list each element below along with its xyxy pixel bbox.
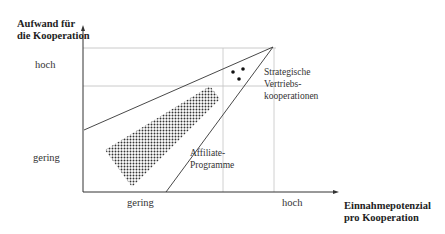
y-axis-title-line1: Aufwand für — [17, 18, 90, 30]
strategic-dot — [231, 70, 235, 74]
y-tick-high: hoch — [35, 59, 55, 71]
strategic-dot — [237, 77, 241, 81]
x-tick-high: hoch — [282, 197, 302, 209]
y-axis-title: Aufwand für die Kooperation — [17, 18, 90, 42]
region-label-affiliate-line1: Affiliate- — [190, 148, 234, 160]
region-label-affiliate-line2: Programme — [190, 160, 234, 172]
x-axis-title-line1: Einnahmepotenzial — [344, 200, 431, 212]
region-label-strategic-line1: Strategische — [264, 67, 318, 79]
strategic-dot — [241, 67, 245, 71]
region-label-affiliate: Affiliate- Programme — [190, 148, 234, 172]
region-label-strategic: Strategische Vertriebs- kooperationen — [264, 67, 318, 103]
region-label-strategic-line3: kooperationen — [264, 91, 318, 103]
y-tick-low: gering — [33, 152, 60, 164]
x-axis-arrowhead — [333, 190, 339, 194]
x-axis-title: Einnahmepotenzial pro Kooperation — [344, 200, 431, 224]
dotted-band-area — [105, 86, 220, 187]
x-axis-title-line2: pro Kooperation — [344, 212, 431, 224]
y-axis-title-line2: die Kooperation — [17, 30, 90, 42]
region-label-strategic-line2: Vertriebs- — [264, 79, 318, 91]
x-tick-low: gering — [127, 197, 154, 209]
